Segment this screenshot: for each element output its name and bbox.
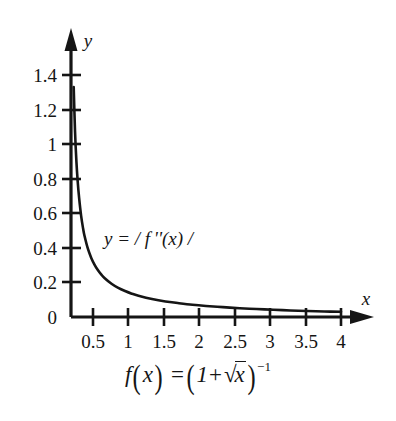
- x-tick-label-1.5: 1.5: [152, 331, 176, 352]
- x-axis-label: x: [361, 288, 371, 309]
- formula-one: 1: [196, 362, 208, 387]
- formula-close-paren: ): [247, 358, 255, 396]
- formula-exponent: −1: [257, 359, 271, 374]
- y-tick-label-0: 0: [48, 307, 58, 328]
- x-tick-label-2.5: 2.5: [223, 331, 247, 352]
- y-tick-label-1.2: 1.2: [33, 100, 57, 121]
- formula-radical: √x: [223, 361, 246, 388]
- formula-arg-open: (: [133, 358, 141, 396]
- x-tick-label-4: 4: [336, 331, 346, 352]
- curve-second-derivative: [74, 87, 341, 312]
- y-tick-label-1: 1: [48, 134, 58, 155]
- formula-f: f: [125, 362, 131, 387]
- y-tick-label-0.8: 0.8: [33, 169, 57, 190]
- x-tick-label-2: 2: [194, 331, 204, 352]
- formula-arg-close: ): [155, 358, 163, 396]
- x-tick-label-3.5: 3.5: [294, 331, 318, 352]
- x-tick-label-3: 3: [265, 331, 275, 352]
- y-tick-label-0.4: 0.4: [33, 238, 57, 259]
- radical-argument: x: [235, 361, 246, 388]
- x-axis-arrowhead: [350, 310, 374, 324]
- curve-annotation-label: y = / f ''(x) /: [102, 228, 195, 250]
- y-axis-arrowhead: [65, 28, 78, 51]
- x-tick-label-0.5: 0.5: [81, 331, 105, 352]
- y-axis-label: y: [82, 30, 93, 51]
- figure-container: 1.4 1.2 1 0.8 0.6 0.4 0.2 0 0.5 1 1.5 2 …: [0, 0, 396, 421]
- formula-equals: =: [170, 362, 185, 387]
- y-tick-label-0.2: 0.2: [33, 272, 57, 293]
- y-tick-label-0.6: 0.6: [33, 203, 57, 224]
- formula-plus: +: [208, 362, 223, 387]
- y-tick-label-1.4: 1.4: [33, 65, 57, 86]
- formula-arg-var: x: [143, 362, 153, 387]
- formula-open-paren: (: [187, 358, 195, 396]
- x-tick-label-1: 1: [123, 331, 133, 352]
- function-formula: f(x) =(1+√x)−1: [0, 358, 396, 396]
